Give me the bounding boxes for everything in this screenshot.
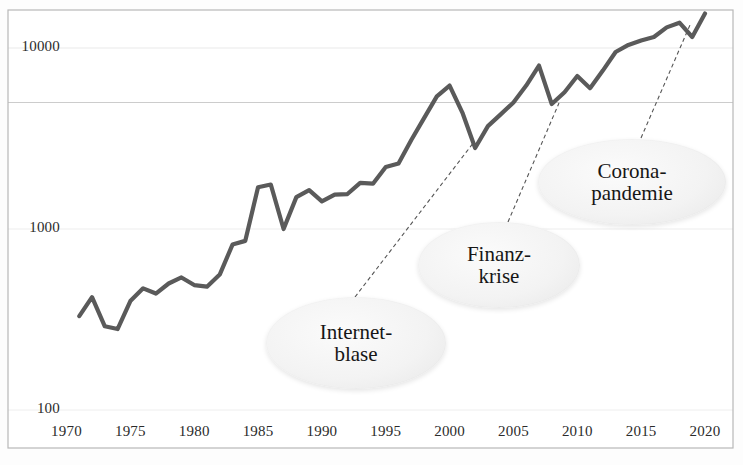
annotation-line-coronapandemie-1: pandemie <box>591 182 673 204</box>
x-tick-2000: 2000 <box>434 423 465 440</box>
chart-canvas <box>0 0 743 465</box>
y-tick-1000: 1000 <box>29 219 60 236</box>
annotation-line-finanzkrise-1: krise <box>479 265 520 287</box>
x-tick-1975: 1975 <box>115 423 146 440</box>
x-tick-1970: 1970 <box>51 423 82 440</box>
x-tick-1985: 1985 <box>243 423 274 440</box>
x-tick-1980: 1980 <box>179 423 210 440</box>
x-tick-2020: 2020 <box>690 423 721 440</box>
x-tick-1990: 1990 <box>306 423 337 440</box>
annotation-bubble-coronapandemie[interactable]: Corona-pandemie <box>538 139 726 225</box>
x-tick-1995: 1995 <box>370 423 401 440</box>
annotation-line-internetblase-1: blase <box>334 343 377 365</box>
annotation-bubble-finanzkrise[interactable]: Finanz-krise <box>418 222 580 308</box>
annotation-line-internetblase-0: Internet- <box>320 321 392 343</box>
x-tick-2010: 2010 <box>562 423 593 440</box>
x-tick-2005: 2005 <box>498 423 529 440</box>
annotation-bubble-internetblase[interactable]: Internet-blase <box>266 297 446 389</box>
annotation-line-coronapandemie-0: Corona- <box>598 160 667 182</box>
y-tick-100: 100 <box>37 400 60 417</box>
x-tick-2015: 2015 <box>626 423 657 440</box>
y-tick-10000: 10000 <box>22 38 61 55</box>
stock-index-chart: 100001000100 197019751980198519901995200… <box>0 0 743 465</box>
annotation-line-finanzkrise-0: Finanz- <box>467 243 531 265</box>
